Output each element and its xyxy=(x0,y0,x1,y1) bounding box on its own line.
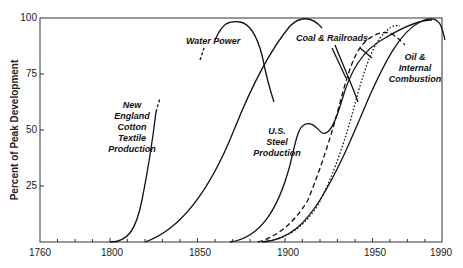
svg-text:Textile: Textile xyxy=(118,133,146,143)
chart-figure: 100 75 50 25 Percent of Peak Development… xyxy=(0,0,463,268)
line-chart: 100 75 50 25 Percent of Peak Development… xyxy=(0,0,463,268)
y-tick-25: 25 xyxy=(26,180,38,191)
svg-text:Internal: Internal xyxy=(399,63,432,73)
svg-text:U.S.: U.S. xyxy=(268,126,286,136)
svg-text:Production: Production xyxy=(108,144,156,154)
x-tick-1760: 1760 xyxy=(29,247,52,258)
label-oil-combustion: Oil & Internal Combustion xyxy=(389,52,442,84)
svg-text:England: England xyxy=(114,111,150,121)
y-axis xyxy=(40,74,44,186)
svg-text:Production: Production xyxy=(253,148,301,158)
label-us-steel: U.S. Steel Production xyxy=(253,126,301,158)
label-coal-railroads: Coal & Railroads xyxy=(296,33,368,43)
y-tick-100: 100 xyxy=(20,12,37,23)
plot-frame xyxy=(40,18,442,242)
label-water-power: Water Power xyxy=(186,36,241,46)
y-tick-75: 75 xyxy=(26,68,38,79)
svg-text:Steel: Steel xyxy=(266,137,288,147)
x-tick-1900: 1900 xyxy=(277,247,300,258)
x-tick-1800: 1800 xyxy=(101,247,124,258)
y-axis-label: Percent of Peak Development xyxy=(9,59,20,200)
series-coal-railroads xyxy=(145,19,322,242)
x-tick-1950: 1950 xyxy=(364,247,387,258)
coal-leader-line xyxy=(332,48,346,78)
y-tick-50: 50 xyxy=(26,124,38,135)
series-coal-railroads-decline xyxy=(335,45,358,102)
svg-text:Combustion: Combustion xyxy=(389,74,442,84)
series-water-power xyxy=(215,22,274,102)
x-tick-1990: 1990 xyxy=(430,247,453,258)
series-cotton-textile-dashed xyxy=(156,98,160,112)
series-water-power-dashed xyxy=(200,48,204,60)
svg-text:Cotton: Cotton xyxy=(118,122,147,132)
series-us-steel xyxy=(230,20,432,242)
x-tick-1850: 1850 xyxy=(189,247,212,258)
svg-text:New: New xyxy=(123,100,143,110)
svg-text:Oil &: Oil & xyxy=(404,52,425,62)
label-cotton-textile: New England Cotton Textile Production xyxy=(108,100,156,154)
